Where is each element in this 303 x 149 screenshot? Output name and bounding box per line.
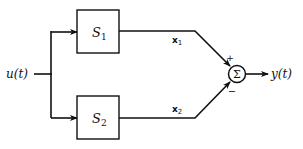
output-label: y(t) [270, 67, 292, 81]
minus-sign: − [228, 86, 236, 97]
sigma-symbol: Σ [233, 68, 241, 81]
plus-sign: + [226, 53, 234, 63]
block-diagram: u(t) S1 S2 x1 x2 Σ + − y(t) [0, 0, 303, 149]
signal-x1-label: x1 [172, 35, 182, 47]
input-label: u(t) [6, 67, 28, 81]
signal-x2-label: x2 [172, 104, 182, 116]
